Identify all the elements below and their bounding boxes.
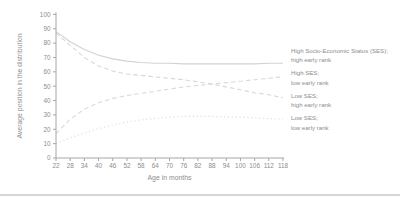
x-tick-label-76: 76 — [180, 162, 188, 169]
series-line-low-ses-low-early-rank — [56, 116, 283, 143]
legend-label-low-ses-low-early-rank-line1: Low SES; — [291, 114, 318, 121]
x-tick-label-88: 88 — [209, 162, 217, 169]
legend: High Socio-Economic Status (SES); high e… — [291, 47, 388, 131]
legend-label-low-ses-low-early-rank-line2: low early rank — [291, 124, 330, 131]
y-tick-label-70: 70 — [43, 54, 51, 61]
y-tick-label-50: 50 — [43, 83, 51, 90]
y-tick-label-80: 80 — [43, 39, 51, 46]
legend-label-low-ses-high-early-rank-line1: Low SES; — [291, 92, 318, 99]
x-tick-label-40: 40 — [95, 162, 103, 169]
axes — [53, 12, 284, 161]
x-tick-label-22: 22 — [52, 162, 60, 169]
y-axis-title: Average position in the distribution — [16, 33, 24, 138]
y-tick-label-60: 60 — [43, 68, 51, 75]
x-axis-title: Age in months — [147, 174, 192, 182]
legend-label-high-ses-high-early-rank-line2: high early rank — [291, 56, 332, 63]
x-tick-label-28: 28 — [67, 162, 75, 169]
y-tick-label-40: 40 — [43, 97, 51, 104]
x-tick-label-112: 112 — [264, 162, 275, 169]
series-line-low-ses-high-early-rank — [56, 33, 283, 98]
y-tick-label-0: 0 — [47, 154, 51, 161]
y-tick-label-30: 30 — [43, 111, 51, 118]
x-tick-label-82: 82 — [194, 162, 202, 169]
ses-trajectory-chart: 0102030405060708090100222834404652586470… — [0, 0, 400, 197]
y-tick-label-20: 20 — [43, 126, 51, 133]
series-line-high-ses-high-early-rank — [56, 32, 283, 64]
chart-canvas: 0102030405060708090100222834404652586470… — [0, 0, 400, 197]
x-tick-label-106: 106 — [249, 162, 260, 169]
legend-label-high-ses-high-early-rank-line1: High Socio-Economic Status (SES); — [291, 47, 388, 54]
x-tick-label-52: 52 — [123, 162, 131, 169]
x-tick-label-34: 34 — [81, 162, 89, 169]
x-tick-label-94: 94 — [223, 162, 231, 169]
y-tick-label-10: 10 — [43, 140, 51, 147]
x-tick-label-46: 46 — [109, 162, 117, 169]
x-tick-label-100: 100 — [235, 162, 246, 169]
plot-area: 0102030405060708090100222834404652586470… — [40, 11, 289, 169]
legend-label-high-ses-low-early-rank-line1: High SES; — [291, 69, 319, 76]
x-tick-label-118: 118 — [278, 162, 289, 169]
x-tick-label-58: 58 — [138, 162, 146, 169]
legend-label-low-ses-high-early-rank-line2: high early rank — [291, 101, 332, 108]
y-tick-label-100: 100 — [40, 11, 51, 18]
series-line-high-ses-low-early-rank — [56, 77, 283, 134]
page-bottom-edge — [0, 194, 400, 196]
x-tick-label-70: 70 — [166, 162, 174, 169]
legend-label-high-ses-low-early-rank-line2: low early rank — [291, 79, 330, 86]
x-tick-label-64: 64 — [152, 162, 160, 169]
y-tick-label-90: 90 — [43, 25, 51, 32]
